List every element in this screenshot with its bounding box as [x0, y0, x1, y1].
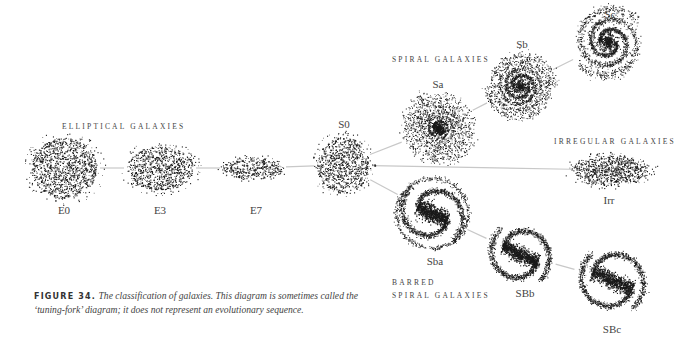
- barred-spiral-galaxies-label: SPIRAL GALAXIES: [392, 291, 490, 300]
- connector-e7-s0: [286, 166, 314, 167]
- galaxy-label-sa: Sa: [433, 78, 444, 90]
- elliptical-galaxies-label: ELLIPTICAL GALAXIES: [62, 122, 185, 131]
- spiral-galaxies-label: SPIRAL GALAXIES: [392, 55, 490, 64]
- galaxy-label-sc: Sc: [605, 8, 616, 20]
- galaxy-sa: [399, 91, 478, 167]
- galaxy-e3: [122, 143, 202, 196]
- irregular-galaxies-label: IRREGULAR GALAXIES: [554, 137, 676, 146]
- galaxies: [25, 3, 658, 311]
- galaxy-label-irr: Irr: [604, 194, 615, 206]
- galaxy-sb: [482, 48, 560, 122]
- connector-s0-irr: [372, 166, 571, 170]
- galaxy-sbb: [487, 227, 553, 282]
- galaxy-label-s0: S0: [338, 118, 350, 130]
- figure-caption: FIGURE 34. The classification of galaxie…: [34, 290, 374, 316]
- connector-s0-sa: [370, 142, 402, 154]
- galaxy-label-sb: Sb: [516, 38, 528, 50]
- figure-number: FIGURE 34.: [34, 292, 96, 301]
- galaxy-sba: [393, 175, 472, 251]
- galaxy-label-sbc: SBc: [603, 323, 621, 335]
- connector-sba-sbb: [467, 229, 486, 238]
- galaxy-e0: [25, 134, 106, 206]
- galaxy-art: [0, 0, 692, 340]
- galaxy-label-e3: E3: [154, 204, 166, 216]
- galaxy-label-e0: E0: [58, 204, 70, 216]
- connector-sbb-sbc: [556, 264, 575, 269]
- connector-s0-sba: [370, 180, 397, 195]
- galaxy-label-e7: E7: [250, 204, 262, 216]
- galaxy-sbc: [578, 251, 649, 311]
- galaxy-e7: [218, 155, 285, 182]
- connector-sa-sb: [473, 103, 487, 110]
- galaxy-classification-diagram: ELLIPTICAL GALAXIES SPIRAL GALAXIES IRRE…: [0, 0, 692, 340]
- galaxy-irr: [566, 152, 658, 190]
- barred-label-line1: BARRED: [392, 278, 436, 287]
- galaxy-label-sba: Sba: [427, 255, 444, 267]
- galaxy-s0: [313, 131, 376, 197]
- galaxy-label-sbb: SBb: [516, 287, 535, 299]
